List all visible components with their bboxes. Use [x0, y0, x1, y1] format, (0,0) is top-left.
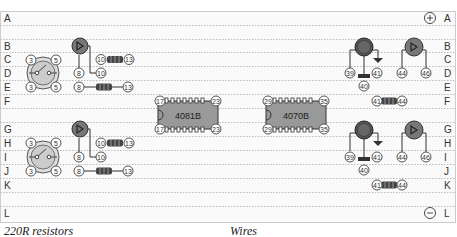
svg-text:29: 29: [264, 126, 272, 133]
svg-text:41: 41: [373, 98, 381, 105]
svg-text:44: 44: [398, 182, 406, 189]
svg-text:39: 39: [346, 70, 354, 77]
row-label: L: [4, 208, 10, 219]
positive-rail-icon: [425, 13, 436, 24]
row-label: C: [4, 54, 11, 65]
svg-text:10: 10: [97, 154, 105, 161]
resistor-right-bottom: 41 44: [372, 180, 407, 190]
row-label: B: [444, 41, 451, 52]
svg-text:8: 8: [77, 70, 81, 77]
svg-text:5: 5: [54, 168, 58, 175]
svg-text:23: 23: [212, 126, 220, 133]
row-label: G: [4, 124, 12, 135]
row-label: L: [444, 208, 450, 219]
row-label: J: [4, 166, 9, 177]
caption-wires: Wires: [230, 224, 257, 237]
svg-text:3: 3: [29, 140, 33, 147]
row-label: D: [444, 68, 451, 79]
svg-text:23: 23: [212, 98, 220, 105]
svg-text:13: 13: [124, 84, 132, 91]
row-label: K: [444, 180, 451, 191]
resistor-left-bottom-a: 10 13: [96, 138, 134, 148]
row-label: F: [4, 96, 10, 107]
row-label: B: [4, 41, 11, 52]
svg-text:10: 10: [97, 140, 105, 147]
ic-4070b: 4070B 29 35 29 35: [263, 96, 329, 134]
svg-text:46: 46: [422, 154, 430, 161]
svg-text:10: 10: [97, 56, 105, 63]
svg-text:3: 3: [29, 168, 33, 175]
negative-rail-icon: [425, 208, 436, 219]
row-label: E: [444, 82, 451, 93]
switch-bottom: 3 5 3 5: [26, 138, 61, 176]
row-label: I: [4, 152, 7, 163]
resistor-right-top: 41 44: [372, 96, 407, 106]
row-label: A: [4, 13, 11, 24]
svg-text:4081B: 4081B: [175, 111, 201, 121]
svg-text:5: 5: [54, 57, 58, 64]
row-label: F: [444, 96, 450, 107]
svg-text:3: 3: [29, 57, 33, 64]
svg-text:35: 35: [320, 98, 328, 105]
svg-text:13: 13: [124, 168, 132, 175]
svg-text:41: 41: [373, 154, 381, 161]
row-label: H: [4, 138, 11, 149]
ic-4081b: 4081B 17 23 17 23: [155, 96, 221, 134]
caption-resistors: 220R resistors: [4, 224, 73, 237]
svg-text:44: 44: [398, 98, 406, 105]
resistor-left-top-b: 8 13: [74, 82, 133, 92]
row-label: H: [444, 138, 451, 149]
row-label: I: [444, 152, 447, 163]
svg-text:8: 8: [77, 154, 81, 161]
svg-text:29: 29: [264, 98, 272, 105]
breadboard-diagram: A B C D E F G H I J K L A B C D E F G H …: [0, 0, 457, 237]
svg-text:10: 10: [97, 70, 105, 77]
svg-text:41: 41: [373, 70, 381, 77]
svg-text:44: 44: [398, 154, 406, 161]
row-label: G: [444, 124, 452, 135]
svg-text:17: 17: [156, 126, 164, 133]
svg-text:4070B: 4070B: [283, 111, 309, 121]
row-label: C: [444, 54, 451, 65]
svg-text:39: 39: [346, 154, 354, 161]
row-label: K: [4, 180, 11, 191]
svg-text:8: 8: [77, 168, 81, 175]
svg-text:40: 40: [360, 83, 368, 90]
svg-text:40: 40: [360, 167, 368, 174]
svg-text:5: 5: [54, 84, 58, 91]
svg-text:5: 5: [54, 140, 58, 147]
svg-text:41: 41: [373, 182, 381, 189]
board-frame: [1, 12, 456, 223]
svg-text:13: 13: [125, 56, 133, 63]
svg-text:3: 3: [29, 84, 33, 91]
row-label: D: [4, 68, 11, 79]
svg-text:17: 17: [156, 98, 164, 105]
resistor-left-top-a: 10 13: [96, 55, 134, 65]
row-label: E: [4, 82, 11, 93]
svg-text:46: 46: [422, 70, 430, 77]
svg-text:13: 13: [125, 140, 133, 147]
svg-text:44: 44: [398, 70, 406, 77]
svg-text:35: 35: [320, 126, 328, 133]
svg-text:8: 8: [77, 84, 81, 91]
row-label: J: [444, 166, 449, 177]
row-label: A: [444, 13, 451, 24]
switch-top: 3 5 3 5: [26, 55, 61, 92]
resistor-left-bottom-b: 8 13: [74, 166, 133, 176]
